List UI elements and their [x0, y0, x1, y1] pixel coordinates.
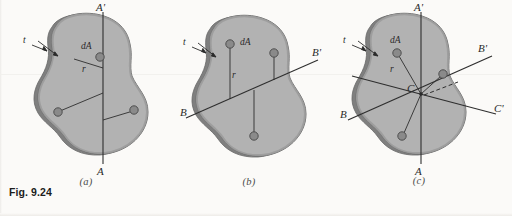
distance-label-r: r: [390, 64, 394, 74]
panel-c-label: (c): [326, 175, 512, 186]
centroid-marker: [419, 92, 423, 96]
thickness-label-t: t: [183, 37, 186, 47]
area-element-dot: [226, 40, 234, 48]
panel-a-drawing: A' A dA r t: [0, 0, 172, 176]
panel-b-drawing: B B' dA r t: [166, 0, 332, 176]
area-element-label-dA: dA: [390, 35, 401, 45]
panel-c-drawing: A' A B B' C' C dA r t: [326, 0, 512, 176]
axis-top-label-A-prime: A': [413, 1, 424, 13]
figure-page: A' A dA r t (a): [0, 0, 512, 216]
thickness-label-t: t: [23, 35, 26, 45]
thickness-label-t: t: [343, 35, 346, 45]
area-element-dot: [130, 106, 138, 114]
area-element-dot: [54, 108, 62, 116]
figure-panel-a: A' A dA r t (a): [0, 0, 172, 216]
figure-panel-c: A' A B B' C' C dA r t (c): [326, 0, 512, 216]
axis-right-label-B-prime: B': [312, 46, 322, 58]
centroid-label-C: C: [407, 82, 415, 94]
area-element-dot: [250, 132, 258, 140]
area-element-label-dA: dA: [81, 41, 92, 51]
area-element-dot: [398, 132, 406, 140]
area-element-dot: [96, 53, 104, 61]
area-element-dot: [439, 70, 447, 78]
plate-face: [38, 13, 148, 154]
area-element-label-dA: dA: [240, 37, 251, 47]
figure-panel-b: B B' dA r t (b): [166, 0, 332, 216]
axis-left-label-B: B: [180, 106, 187, 118]
axis-right-label-B-prime: B': [478, 42, 488, 54]
distance-label-r: r: [82, 64, 86, 74]
distance-label-r: r: [232, 70, 236, 80]
panel-b-label: (b): [166, 176, 332, 187]
area-element-dot: [393, 49, 401, 57]
area-element-dot: [270, 49, 278, 57]
axis-left-label-B: B: [340, 108, 347, 120]
figure-caption: Fig. 9.24: [9, 186, 52, 198]
axis-top-label-A-prime: A': [95, 1, 106, 13]
axis-right-label-C-prime: C': [494, 102, 504, 114]
